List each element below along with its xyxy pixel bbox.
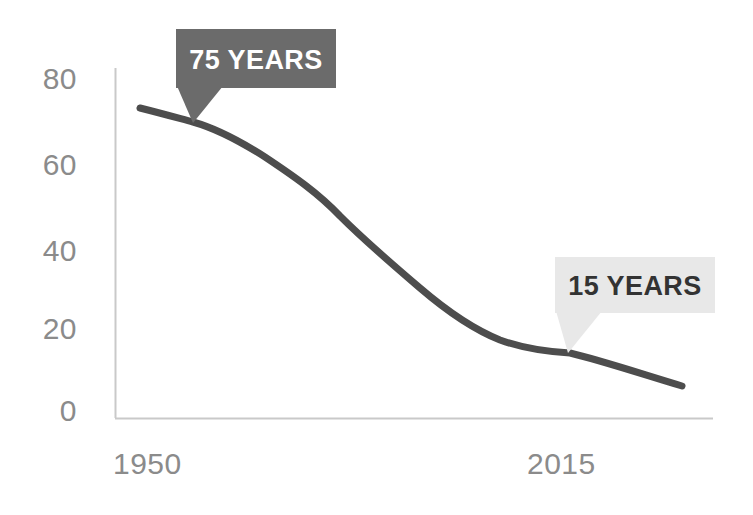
start-callout-label: 75 YEARS (189, 45, 322, 75)
x-tick-label-1950: 1950 (113, 447, 182, 480)
y-tick-label-80: 80 (43, 62, 77, 95)
y-tick-label-60: 60 (43, 148, 77, 181)
x-tick-label-2015: 2015 (527, 447, 596, 480)
y-tick-label-20: 20 (43, 312, 77, 345)
end-callout-label: 15 YEARS (568, 271, 701, 301)
y-tick-label-0: 0 (60, 394, 77, 427)
chart-canvas: 80 60 40 20 0 1950 2015 75 YEARS 15 YEAR… (0, 0, 753, 515)
y-tick-label-40: 40 (43, 234, 77, 267)
line-chart: 80 60 40 20 0 1950 2015 75 YEARS 15 YEAR… (0, 0, 753, 515)
